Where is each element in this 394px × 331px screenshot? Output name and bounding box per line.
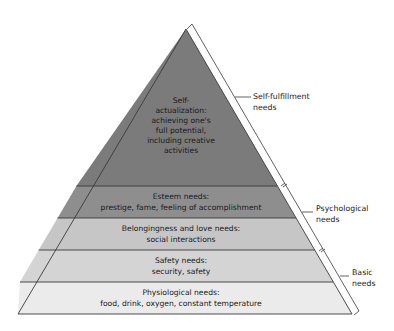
tier-physiological-band <box>18 282 352 314</box>
svg-text:including creative: including creative <box>147 136 215 145</box>
svg-text:Self-: Self- <box>173 96 190 105</box>
svg-text:Basic: Basic <box>352 268 373 277</box>
svg-text:full potential,: full potential, <box>156 126 206 135</box>
svg-text:Belongingness and love needs:: Belongingness and love needs: <box>122 224 240 233</box>
tier-belongingness-band <box>39 218 315 250</box>
svg-text:achieving one's: achieving one's <box>151 116 210 125</box>
group-self-fulfillment-label: Self-fulfillment needs <box>253 92 310 112</box>
group-psychological-label: Psychological needs <box>316 204 369 224</box>
svg-text:prestige, fame, feeling of acc: prestige, fame, feeling of accomplishmen… <box>101 203 262 212</box>
svg-text:activities: activities <box>164 146 198 155</box>
svg-text:food, drink, oxygen, constant: food, drink, oxygen, constant temperatur… <box>100 299 262 308</box>
svg-text:social interactions: social interactions <box>146 235 215 244</box>
tier-esteem-band <box>58 186 296 218</box>
svg-text:Psychological: Psychological <box>316 204 369 213</box>
svg-text:Safety needs:: Safety needs: <box>155 256 207 265</box>
svg-text:needs: needs <box>253 103 277 112</box>
svg-text:security, safety: security, safety <box>152 267 211 276</box>
svg-text:Physiological needs:: Physiological needs: <box>142 288 219 297</box>
svg-text:Esteem needs:: Esteem needs: <box>153 192 209 201</box>
svg-text:Self-fulfillment: Self-fulfillment <box>253 92 310 101</box>
group-basic-label: Basic needs <box>352 268 376 288</box>
tier-safety-band <box>20 250 333 282</box>
maslow-pyramid-diagram: Self- actualization: achieving one's ful… <box>0 0 394 331</box>
svg-text:needs: needs <box>316 215 340 224</box>
svg-text:needs: needs <box>352 279 376 288</box>
svg-text:actualization:: actualization: <box>155 106 206 115</box>
